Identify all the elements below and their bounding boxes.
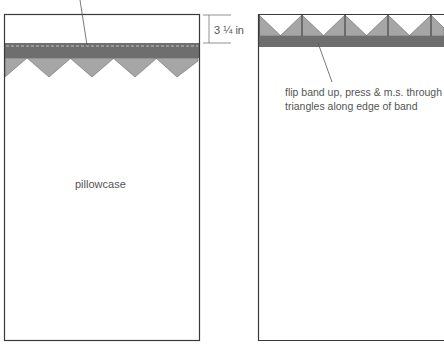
stitch-leader-line: [80, 0, 87, 45]
pillowcase-label: pillowcase: [75, 178, 126, 190]
dimension-label: 3 ¼ in: [214, 24, 244, 36]
pillowcase-diagram: 3 ¼ in pillowcase flip band up, press & …: [0, 0, 444, 347]
instruction-note-line2: triangles along edge of band: [285, 100, 418, 112]
note-leader-line: [318, 43, 332, 82]
left-band: [5, 43, 199, 58]
right-triangles: [259, 15, 444, 36]
instruction-note-line1: flip band up, press & m.s. through: [285, 86, 442, 98]
pillowcase-outline-right: [259, 15, 444, 341]
left-panel: 3 ¼ in pillowcase: [5, 0, 244, 341]
right-panel: flip band up, press & m.s. through trian…: [259, 15, 444, 341]
right-band: [259, 36, 444, 47]
left-triangles: [5, 58, 198, 77]
